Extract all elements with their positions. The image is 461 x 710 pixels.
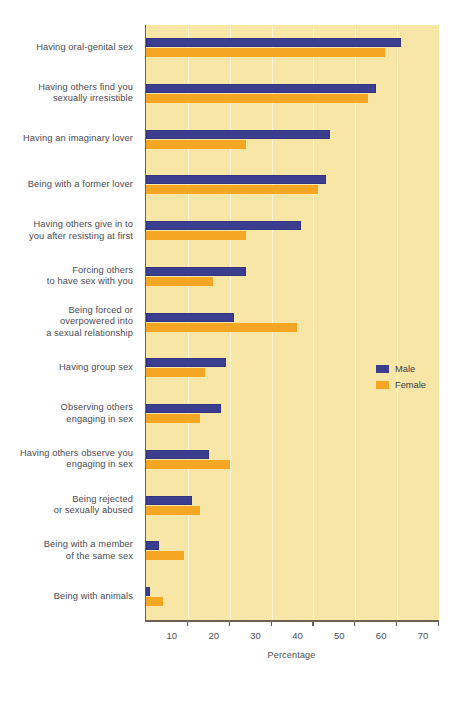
bar-group <box>146 313 439 333</box>
x-tick <box>312 620 313 626</box>
bar-group <box>146 450 439 470</box>
bar-female <box>146 506 200 515</box>
bar-group <box>146 221 439 241</box>
category-label: Having group sex <box>0 362 139 374</box>
bar-male <box>146 541 159 550</box>
bar-group <box>146 404 439 424</box>
x-tick-label: 10 <box>157 630 187 641</box>
x-tick-label: 40 <box>282 630 312 641</box>
bar-male <box>146 221 301 230</box>
legend-item-male: Male <box>376 362 426 376</box>
bar-group <box>146 130 439 150</box>
legend-label-male: Male <box>395 364 415 374</box>
bar-male <box>146 587 150 596</box>
bar-group <box>146 175 439 195</box>
bar-male <box>146 38 401 47</box>
x-tick <box>354 620 355 626</box>
category-label: Being with a former lover <box>0 179 139 191</box>
x-axis-title: Percentage <box>145 650 438 660</box>
category-label: Forcing othersto have sex with you <box>0 265 139 288</box>
bar-male <box>146 175 326 184</box>
category-label: Having an imaginary lover <box>0 133 139 145</box>
category-label: Having others observe youengaging in sex <box>0 448 139 471</box>
bar-female <box>146 414 200 423</box>
bar-group <box>146 541 439 561</box>
bar-female <box>146 185 318 194</box>
category-label: Having oral-genital sex <box>0 42 139 54</box>
bar-male <box>146 130 330 139</box>
bar-female <box>146 460 230 469</box>
bar-chart: Having oral-genital sexHaving others fin… <box>0 0 461 710</box>
bar-female <box>146 551 184 560</box>
bar-female <box>146 48 385 57</box>
bar-group <box>146 38 439 58</box>
bar-group <box>146 267 439 287</box>
category-label: Being with a memberof the same sex <box>0 539 139 562</box>
x-tick <box>229 620 230 626</box>
category-label: Being with animals <box>0 591 139 603</box>
bar-female <box>146 323 297 332</box>
bar-male <box>146 404 221 413</box>
bar-female <box>146 368 205 377</box>
bar-male <box>146 267 246 276</box>
bar-group <box>146 84 439 104</box>
category-label: Being rejectedor sexually abused <box>0 494 139 517</box>
x-tick-label: 30 <box>241 630 271 641</box>
bar-female <box>146 231 246 240</box>
bar-male <box>146 450 209 459</box>
plot-area <box>145 25 439 620</box>
category-labels: Having oral-genital sexHaving others fin… <box>0 25 139 620</box>
x-tick <box>438 620 439 626</box>
chart-legend: Male Female <box>376 362 426 394</box>
bar-male <box>146 496 192 505</box>
category-label: Observing othersengaging in sex <box>0 402 139 425</box>
bar-male <box>146 358 226 367</box>
category-label: Being forced oroverpowered intoa sexual … <box>0 305 139 340</box>
legend-swatch-male <box>376 365 389 373</box>
x-tick <box>396 620 397 626</box>
x-tick <box>271 620 272 626</box>
x-tick-label: 60 <box>366 630 396 641</box>
bar-group <box>146 496 439 516</box>
category-label: Having others find yousexually irresisti… <box>0 82 139 105</box>
bar-group <box>146 587 439 607</box>
bar-female <box>146 94 368 103</box>
x-axis-line <box>145 620 438 622</box>
x-tick-label: 70 <box>408 630 438 641</box>
category-label: Having others give in toyou after resist… <box>0 219 139 242</box>
x-tick-label: 20 <box>199 630 229 641</box>
gridline <box>439 25 440 620</box>
legend-label-female: Female <box>395 380 426 390</box>
bar-male <box>146 313 234 322</box>
x-tick <box>187 620 188 626</box>
bar-male <box>146 84 376 93</box>
bar-female <box>146 140 246 149</box>
bar-female <box>146 597 163 606</box>
legend-swatch-female <box>376 381 389 389</box>
legend-item-female: Female <box>376 378 426 392</box>
x-tick-label: 50 <box>324 630 354 641</box>
bar-female <box>146 277 213 286</box>
bar-rows <box>146 25 439 620</box>
